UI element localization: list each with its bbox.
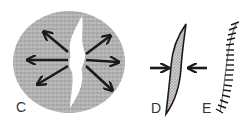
arc-curve bbox=[220, 24, 236, 112]
panel-e bbox=[216, 22, 239, 113]
panel-c bbox=[13, 11, 125, 113]
hatch-marks bbox=[216, 22, 239, 113]
diagram-canvas bbox=[0, 0, 249, 125]
label-d: D bbox=[151, 101, 161, 115]
crescent-cell bbox=[166, 24, 186, 114]
label-c: C bbox=[16, 100, 26, 114]
label-e: E bbox=[202, 101, 211, 115]
